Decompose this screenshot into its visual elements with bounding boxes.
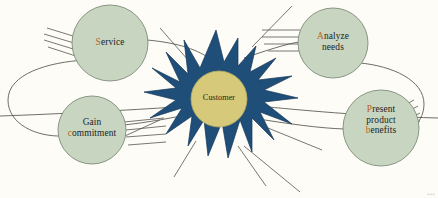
diagram-canvas: Service Analyze needs Gain commitment Pr… — [0, 0, 438, 198]
diagram-graphics — [0, 0, 438, 198]
speed-lines-analyze — [262, 30, 302, 51]
node-circle-service[interactable] — [72, 5, 148, 81]
node-circle-analyze-needs[interactable] — [298, 8, 368, 78]
node-circle-gain-commitment[interactable] — [58, 96, 126, 164]
customer-starburst — [144, 30, 298, 158]
node-circle-present-product-benefits[interactable] — [343, 90, 419, 166]
page-corner-mark: ••• — [427, 191, 435, 197]
